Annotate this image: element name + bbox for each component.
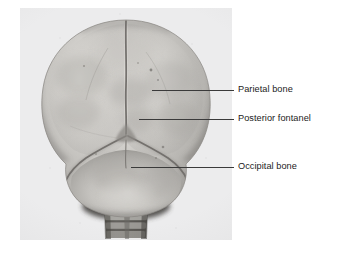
label-occipital-bone: Occipital bone	[238, 161, 297, 172]
leader-line-parietal-bone	[152, 90, 234, 91]
label-posterior-fontanel: Posterior fontanel	[238, 113, 311, 124]
skull-illustration	[20, 8, 232, 240]
figure-root: Parietal bone Posterior fontanel Occipit…	[0, 0, 339, 253]
leader-line-occipital-bone	[131, 167, 234, 168]
skull-photograph	[20, 8, 232, 240]
label-parietal-bone: Parietal bone	[238, 84, 293, 95]
leader-line-posterior-fontanel	[139, 119, 234, 120]
